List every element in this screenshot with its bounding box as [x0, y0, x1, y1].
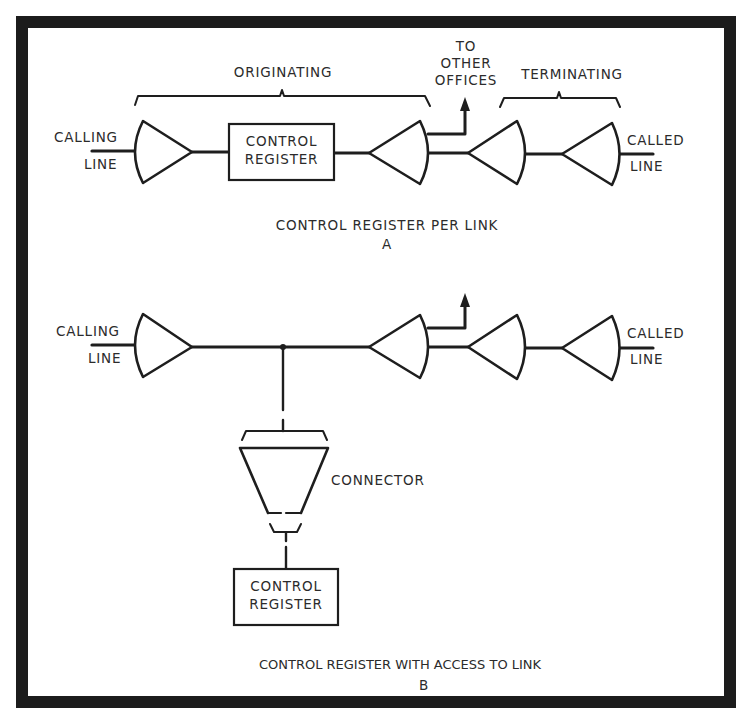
register-label-a-1: CONTROL	[229, 135, 334, 149]
called-line-label-b: LINE	[630, 353, 663, 367]
figure: ORIGINATING TO OTHER OFFICES TERMINATING…	[0, 0, 749, 722]
register-label-b-2: REGISTER	[234, 598, 338, 612]
connector-trapezoid	[240, 448, 328, 513]
called-line-label-a: LINE	[630, 160, 663, 174]
caption-b: CONTROL REGISTER WITH ACCESS TO LINK	[255, 658, 545, 671]
branch-arrow-icon-b	[460, 293, 470, 307]
calling-label-a: CALLING	[54, 131, 118, 145]
connector-bottom-bracket	[270, 524, 301, 532]
calling-line-label-b: LINE	[88, 352, 121, 366]
originating-switch-1	[135, 121, 192, 183]
diagram-b	[92, 293, 653, 625]
connector-label: CONNECTOR	[331, 474, 425, 488]
offices-label: OFFICES	[426, 74, 506, 88]
to-label: TO	[436, 40, 496, 54]
caption-a: CONTROL REGISTER PER LINK	[244, 219, 530, 233]
caption-b-letter: B	[409, 679, 439, 693]
register-label-a-2: REGISTER	[229, 153, 334, 167]
called-label-b: CALLED	[627, 327, 684, 341]
branch-to-other-offices-b	[428, 300, 465, 328]
other-label: OTHER	[436, 57, 496, 71]
originating-label: ORIGINATING	[226, 66, 340, 80]
branch-to-other-offices	[428, 104, 465, 134]
branch-arrow-icon	[460, 97, 470, 111]
terminating-switch-1-b	[468, 315, 525, 379]
originating-switch-1-b	[135, 314, 192, 377]
originating-bracket	[135, 90, 430, 106]
figure-frame	[22, 22, 730, 702]
calling-line-label-a: LINE	[84, 158, 117, 172]
terminating-switch-2	[562, 123, 620, 185]
terminating-label: TERMINATING	[512, 68, 632, 82]
caption-a-letter: A	[372, 238, 402, 252]
called-label-a: CALLED	[627, 134, 684, 148]
register-label-b-1: CONTROL	[234, 580, 338, 594]
terminating-switch-1	[468, 121, 525, 184]
calling-label-b: CALLING	[56, 325, 120, 339]
diagram-a	[92, 90, 653, 185]
connector-top-bracket	[242, 431, 327, 440]
originating-switch-2	[369, 121, 428, 184]
originating-switch-2-b	[369, 315, 428, 378]
terminating-bracket	[500, 92, 620, 107]
terminating-switch-2-b	[562, 316, 620, 380]
